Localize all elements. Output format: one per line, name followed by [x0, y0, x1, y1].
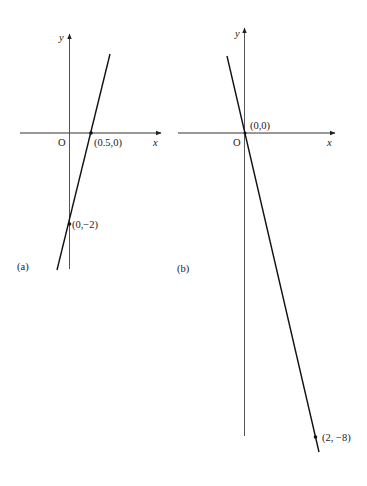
point-a-y-intercept [68, 222, 72, 226]
point-b-2-neg8 [314, 435, 318, 439]
origin-label-b: O [233, 137, 241, 148]
point-a2-label: (0,−2) [72, 219, 99, 231]
x-axis-label-a: x [152, 137, 158, 148]
point-b-origin [244, 132, 247, 135]
panel-b-label: (b) [177, 263, 190, 275]
point-a-x-intercept [89, 131, 93, 135]
origin-label-a: O [58, 137, 66, 148]
y-axis-label-a: y [58, 32, 64, 43]
point-b1-label: (0,0) [250, 120, 271, 132]
panel-a: y x O (0.5,0) (0,−2) (a) [17, 32, 161, 273]
line-b [227, 56, 319, 452]
panel-b: y x O (0,0) (2, −8) (b) [177, 28, 351, 452]
line-a [57, 54, 110, 270]
panel-a-label: (a) [17, 261, 29, 273]
y-axis-label-b: y [234, 28, 240, 39]
point-b2-label: (2, −8) [322, 432, 351, 444]
figure: y x O (0.5,0) (0,−2) (a) y x O (0,0) (2,… [0, 0, 367, 486]
point-a1-label: (0.5,0) [94, 137, 122, 149]
x-axis-label-b: x [326, 137, 332, 148]
